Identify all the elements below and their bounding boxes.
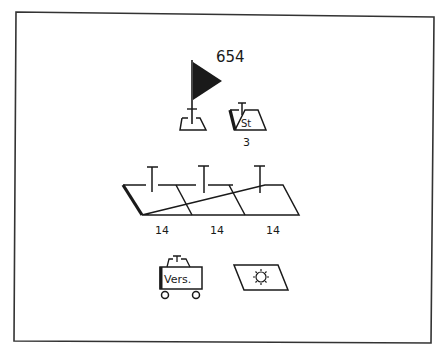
st-count: 3 (243, 136, 250, 149)
flag-label: 654 (216, 48, 245, 66)
t-marker-icon (147, 167, 158, 192)
wheel-icon (162, 292, 169, 299)
flag-icon (193, 62, 222, 100)
flag-symbol (180, 60, 222, 130)
flag-base-icon (180, 118, 206, 130)
chain-label-2: 14 (210, 224, 224, 237)
t-marker-icon (254, 166, 265, 193)
cart-text: Vers. (164, 273, 191, 286)
chain-outline (123, 185, 299, 215)
wheel-icon (193, 292, 200, 299)
chain-label-1: 14 (155, 224, 169, 237)
chain-label-3: 14 (266, 224, 280, 237)
st-thick-edge (230, 110, 235, 130)
sun-symbol (234, 265, 288, 290)
sun-icon (253, 269, 269, 285)
t-marker-icon (198, 166, 209, 193)
diagram-canvas: 654 St 3 14 14 14 Vers. (0, 0, 441, 355)
chain-thick-edge (123, 185, 142, 215)
cart-antenna-icon (167, 256, 190, 267)
chain-divider-1 (176, 185, 192, 215)
st-text: St (241, 118, 251, 129)
chain-divider-2 (229, 185, 245, 215)
chain-symbol (123, 166, 299, 215)
sun-parallelogram (234, 265, 288, 290)
